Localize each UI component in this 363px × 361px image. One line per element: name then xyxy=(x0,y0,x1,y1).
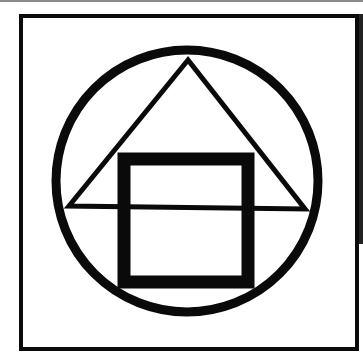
squared-circle-symbol xyxy=(0,0,363,361)
circle xyxy=(56,50,318,312)
inner-square xyxy=(124,159,248,282)
outer-frame xyxy=(21,16,357,349)
symbol-canvas xyxy=(0,0,363,361)
right-edge-shadow xyxy=(359,14,363,244)
